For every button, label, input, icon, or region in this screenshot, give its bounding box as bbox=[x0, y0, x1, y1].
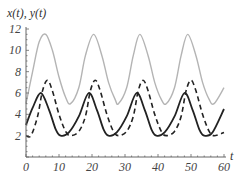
y-axis: 24681012 bbox=[9, 22, 29, 157]
line-chart: 24681012 0102030405060 x(t), y(t) t bbox=[0, 0, 241, 180]
y-tick-label: 4 bbox=[15, 107, 21, 121]
x-axis-title: t bbox=[230, 149, 234, 163]
y-tick-label: 12 bbox=[9, 22, 21, 36]
x-tick-label: 40 bbox=[152, 160, 164, 174]
y-tick-label: 6 bbox=[15, 86, 21, 100]
x-axis: 0102030405060 bbox=[23, 154, 230, 174]
series-line-x-t-y-t bbox=[26, 34, 224, 104]
plot-series bbox=[26, 34, 224, 137]
x-tick-label: 10 bbox=[53, 160, 65, 174]
y-axis-title: x(t), y(t) bbox=[6, 6, 46, 20]
x-tick-label: 50 bbox=[185, 160, 197, 174]
x-tick-label: 20 bbox=[86, 160, 98, 174]
x-tick-label: 60 bbox=[218, 160, 230, 174]
y-tick-label: 8 bbox=[15, 65, 21, 79]
x-tick-label: 30 bbox=[118, 160, 131, 174]
y-tick-label: 2 bbox=[15, 129, 21, 143]
x-tick-label: 0 bbox=[23, 160, 29, 174]
series-line-x-t bbox=[26, 93, 224, 136]
y-tick-label: 10 bbox=[9, 43, 21, 57]
